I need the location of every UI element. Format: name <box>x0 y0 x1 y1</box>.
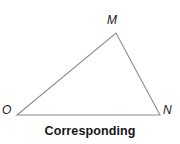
vertex-label-o: O <box>2 104 11 116</box>
triangle-diagram <box>0 0 180 144</box>
vertex-label-n: N <box>163 104 172 116</box>
vertex-label-m: M <box>107 14 117 26</box>
figure-caption: Corresponding <box>0 124 180 138</box>
triangle-shape <box>17 33 160 115</box>
figure-canvas: M O N Corresponding <box>0 0 180 144</box>
